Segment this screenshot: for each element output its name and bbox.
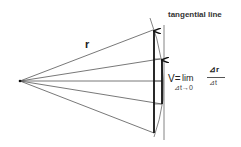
position-rays <box>20 30 162 133</box>
velocity-diagram <box>0 0 241 147</box>
tangential-line-label: tangential line <box>168 10 222 19</box>
fraction-denominator: ⊿t <box>209 79 217 87</box>
limit-label: lim <box>182 73 194 83</box>
fraction-numerator: ⊿r <box>209 65 219 74</box>
origin-point <box>19 80 22 83</box>
limit-subscript: ⊿t→0 <box>174 84 193 92</box>
fraction-bar <box>207 77 225 78</box>
position-vector-label: r <box>85 38 89 50</box>
velocity-label: V= <box>168 73 181 84</box>
